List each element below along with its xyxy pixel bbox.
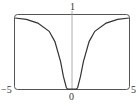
y-tick-top: 1 bbox=[70, 2, 75, 12]
x-tick-right: 5 bbox=[131, 85, 136, 95]
x-tick-center: 0 bbox=[69, 92, 74, 102]
x-tick-left: −5 bbox=[1, 85, 12, 95]
